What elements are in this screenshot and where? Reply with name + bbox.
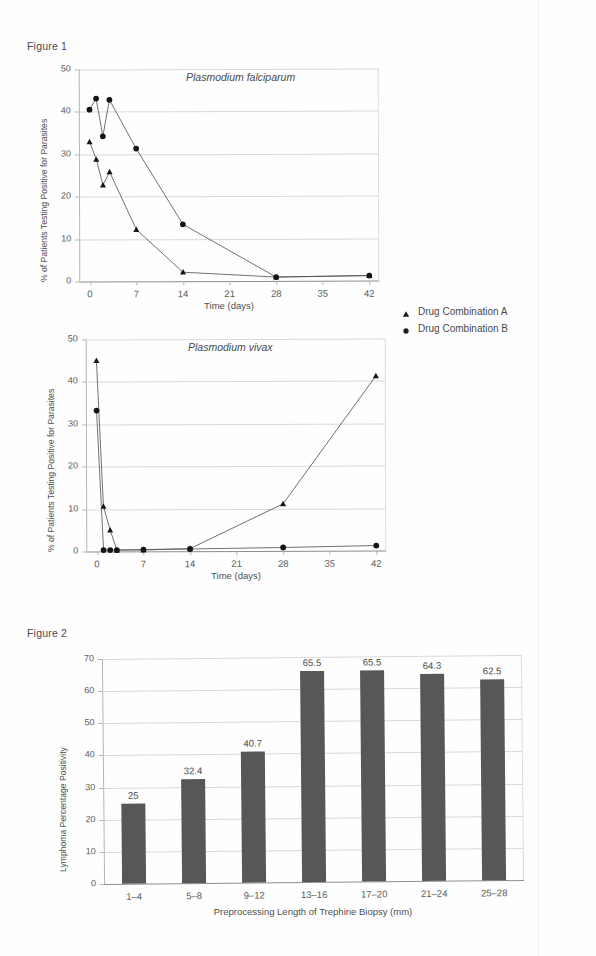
x-axis-category-label: 25–28 bbox=[468, 887, 520, 898]
bar-value-label: 62.5 bbox=[470, 665, 514, 676]
x-axis-title: Preprocessing Length of Trephine Biopsy … bbox=[103, 906, 523, 917]
bar-value-label: 32.4 bbox=[171, 765, 215, 776]
bar-value-label: 40.7 bbox=[231, 738, 275, 749]
bar bbox=[480, 679, 506, 880]
plot-area: 010203040506070251–432.45–840.79–1265.51… bbox=[102, 655, 524, 884]
x-axis-category-label: 5–8 bbox=[168, 890, 220, 901]
y-axis-title: Lymphoma Percentage Positivity bbox=[58, 747, 68, 872]
y-axis-label: 50 bbox=[72, 717, 94, 727]
bar bbox=[241, 752, 266, 883]
chart-lymphoma-positivity: Lymphoma Percentage Positivity Preproces… bbox=[0, 0, 596, 956]
scanned-page: Figure 1 % of Patients Testing Positive … bbox=[0, 0, 596, 956]
bar bbox=[420, 674, 446, 881]
y-axis-label: 60 bbox=[72, 685, 94, 695]
y-axis-label: 0 bbox=[74, 878, 96, 888]
bar bbox=[300, 671, 326, 882]
x-axis-category-label: 13–16 bbox=[288, 889, 340, 900]
x-axis-category-label: 1–4 bbox=[108, 890, 160, 901]
y-axis-line bbox=[102, 659, 105, 884]
x-axis-category-label: 17–20 bbox=[348, 888, 400, 899]
x-axis-category-label: 9–12 bbox=[228, 889, 280, 900]
bar bbox=[121, 803, 146, 884]
bar bbox=[360, 671, 386, 882]
plot-right-border bbox=[521, 655, 524, 880]
y-axis-label: 10 bbox=[74, 846, 96, 856]
bar-value-label: 65.5 bbox=[290, 657, 334, 668]
bar-value-label: 64.3 bbox=[410, 660, 454, 671]
y-axis-label: 70 bbox=[72, 653, 94, 663]
y-axis-label: 40 bbox=[73, 750, 95, 760]
bar bbox=[181, 779, 206, 883]
y-axis-label: 20 bbox=[73, 814, 95, 824]
bar-value-label: 25 bbox=[111, 789, 155, 800]
y-axis-label: 30 bbox=[73, 782, 95, 792]
bar-value-label: 65.5 bbox=[350, 657, 394, 668]
x-axis-category-label: 21–24 bbox=[408, 888, 460, 899]
